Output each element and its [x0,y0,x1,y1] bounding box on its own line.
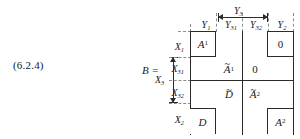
guide-row-x32-x2 [169,103,191,104]
guide-col-right [293,13,294,32]
cell-mid-lower-right-text: ~A [250,88,257,100]
cell-top-right-base: 0 [278,38,284,50]
matrix-grid: A1 0 D A2 ~A1 0 ~D ~A2 [190,31,294,135]
y2-sub: 2 [283,24,286,31]
cell-mid-upper-right-base: 0 [252,63,258,75]
guide-col-y2-left [268,13,269,32]
cell-mid-upper-left: ~A1 [216,57,242,80]
column-header-y1: Y1 [194,19,218,31]
tilde-accent-icon: ~ [226,85,232,95]
cell-mid-lower-left: ~D [216,80,242,108]
span-bar-horizontal [218,17,268,18]
x2-sub: 2 [181,119,184,126]
cell-mid-upper-left-text: ~A [224,63,231,75]
guide-row-x31-x32 [169,80,191,81]
row-header-x1: X1 [150,41,184,53]
row-header-x32: X32 [150,87,184,99]
cell-mid-lower-left-text: ~D [225,88,233,100]
guide-col-y32-left [242,13,243,32]
y1-sub: 1 [207,24,210,31]
matrix-border-right [293,31,294,135]
guide-col-y31-left [216,13,217,32]
x31-sub: 31 [178,68,185,75]
cell-top-left-sup: 1 [205,39,209,47]
x1-sub: 1 [181,46,184,53]
row-span-label-x3: X3 [155,74,164,86]
tilde-accent-icon: ~ [250,85,256,95]
column-header-y32: Y32 [244,19,268,31]
equation-number: (6.2.4) [13,59,44,71]
cell-top-right-text: 0 [278,38,284,50]
cell-mid-lower-right: ~A2 [242,80,268,108]
column-header-y31: Y31 [219,19,243,31]
x3-sub: 3 [161,79,164,86]
cell-bottom-left: D [190,108,216,134]
cell-bottom-left-text: D [199,116,207,128]
cell-mid-lower-right-sup: 2 [257,90,261,98]
cell-mid-upper-right: 0 [242,57,268,80]
cell-top-right: 0 [267,31,293,57]
row-header-x2: X2 [150,114,184,126]
guide-row-x1-x31 [169,57,191,58]
x32-sub: 32 [178,92,185,99]
cell-top-left-text: A1 [198,38,208,50]
cell-top-left-base: A [198,38,205,50]
cell-bottom-right-sup: 2 [282,116,286,124]
block-matrix-figure: (6.2.4) B = Y3 Y1 Y31 Y32 Y2 X1 X31 X32 … [0,0,300,139]
tilde-accent-icon: ~ [224,59,230,69]
y32-sub: 32 [256,24,263,31]
cell-bottom-left-base: D [199,116,207,128]
column-header-y2: Y2 [270,19,294,31]
cell-bottom-right: A2 [267,108,293,134]
cell-mid-upper-left-sup: 1 [231,65,235,73]
cell-bottom-right-text: A2 [275,116,285,128]
y31-sub: 31 [231,24,238,31]
cell-top-left: A1 [190,31,216,57]
